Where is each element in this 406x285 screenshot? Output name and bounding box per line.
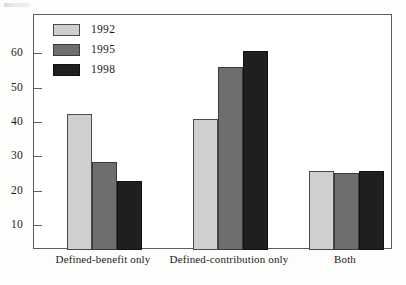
x-axis-labels: Defined-benefit only Defined-contributio… [33, 253, 392, 275]
bar-1992-both [309, 171, 334, 250]
bar-1998-defined-contribution-only [243, 51, 268, 250]
bars-layer [34, 15, 393, 250]
y-tick-label-30: 30 [11, 149, 23, 161]
x-category-label-both: Both [334, 253, 356, 265]
bar-1998-both [359, 171, 384, 250]
y-tick-label-60: 60 [11, 46, 23, 58]
y-tick-label-10: 10 [11, 218, 23, 230]
bar-1998-defined-benefit-only [117, 181, 142, 250]
y-tick-label-40: 40 [11, 115, 23, 127]
y-axis: 60 50 40 30 20 10 [0, 14, 33, 249]
x-category-label-defined-benefit-only: Defined-benefit only [56, 253, 151, 265]
bar-1992-defined-benefit-only [67, 114, 92, 251]
bar-1995-both [334, 173, 359, 250]
x-category-label-defined-contribution-only: Defined-contribution only [170, 253, 289, 265]
chart-page: 60 50 40 30 20 10 1992 1995 1998 [0, 0, 406, 285]
plot-frame: 1992 1995 1998 [33, 14, 392, 249]
y-tick-label-20: 20 [11, 184, 23, 196]
bar-1992-defined-contribution-only [193, 119, 218, 250]
bar-1995-defined-contribution-only [218, 67, 243, 250]
y-tick-label-50: 50 [11, 81, 23, 93]
bar-1995-defined-benefit-only [92, 162, 117, 250]
scan-artifact [4, 3, 30, 7]
